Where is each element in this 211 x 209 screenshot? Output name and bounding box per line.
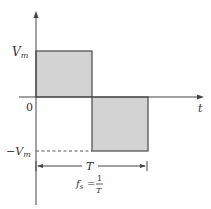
- formula-equals: =: [87, 178, 95, 189]
- period-arrow-left-icon: [37, 164, 43, 168]
- formula-denominator: T: [96, 186, 102, 195]
- frequency-formula: fs = 1 T: [75, 174, 103, 195]
- positive-half-cycle: [36, 51, 92, 97]
- vm-label: Vm: [12, 45, 29, 60]
- square-wave-diagram: Vm −Vm 0 t T fs = 1 T: [0, 0, 211, 209]
- t-axis-label: t: [198, 102, 203, 115]
- formula-f: fs: [75, 178, 84, 191]
- period-label: T: [86, 160, 95, 173]
- period-arrow-right-icon: [140, 164, 146, 168]
- y-axis-arrow-icon: [34, 11, 39, 18]
- formula-numerator: 1: [97, 174, 102, 183]
- negative-half-cycle: [92, 97, 148, 151]
- t-axis-arrow-icon: [197, 95, 204, 100]
- origin-label: 0: [26, 101, 33, 114]
- neg-vm-label: −Vm: [6, 145, 31, 159]
